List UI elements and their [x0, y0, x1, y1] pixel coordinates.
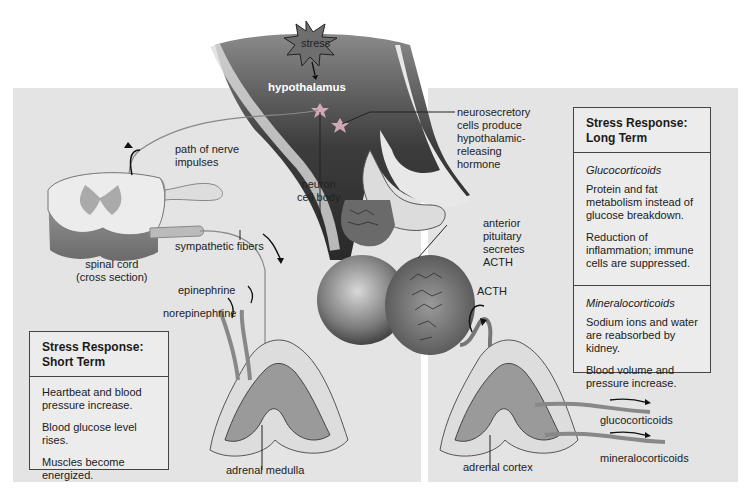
glucocorticoids-section: Glucocorticoids Protein and fat metaboli…	[574, 153, 710, 285]
spinal-cord-label: spinal cord (cross section)	[76, 258, 148, 284]
epinephrine-label: epinephrine	[178, 284, 236, 297]
neuron-cell-body-label: neuron cell body	[297, 178, 340, 204]
adrenal-medulla-label: adrenal medulla	[226, 464, 304, 477]
acth-label: ACTH	[477, 285, 507, 298]
adrenal-cortex-label: adrenal cortex	[463, 461, 533, 474]
stress-label: stress	[301, 37, 330, 50]
adrenal-medulla-illustration	[210, 310, 348, 470]
long-term-title: Stress Response: Long Term	[574, 108, 710, 153]
sympathetic-fibers-label: sympathetic fibers	[175, 240, 264, 253]
long-term-response-box: Stress Response: Long Term Glucocorticoi…	[573, 107, 711, 373]
path-of-nerve-impulses-label: path of nerve impulses	[175, 143, 239, 169]
long-term-item: Reduction of inflammation; immune cells …	[586, 231, 698, 270]
short-term-response-box: Stress Response: Short Term Heartbeat an…	[29, 331, 169, 470]
hypothalamus-label: hypothalamus	[268, 81, 346, 94]
mineralocorticoids-section: Mineralocorticoids Sodium ions and water…	[574, 285, 710, 405]
anterior-pituitary-label: anterior pituitary secretes ACTH	[483, 217, 525, 269]
norepinephrine-label: norepinephrine	[163, 307, 236, 320]
neurosecretory-label: neurosecretory cells produce hypothalami…	[457, 106, 530, 171]
short-term-item: Blood glucose level rises.	[42, 421, 156, 447]
short-term-item: Muscles become energized.	[42, 456, 156, 482]
long-term-item: Sodium ions and water are reabsorbed by …	[586, 316, 698, 355]
short-term-item: Heartbeat and blood pressure increase.	[42, 386, 156, 412]
long-term-item: Blood volume and pressure increase.	[586, 364, 698, 390]
long-term-item: Protein and fat metabolism instead of gl…	[586, 183, 698, 222]
glucocorticoids-label: glucocorticoids	[600, 414, 673, 427]
short-term-title: Stress Response: Short Term	[30, 332, 168, 377]
mineralocorticoids-label: mineralocorticoids	[600, 452, 689, 465]
